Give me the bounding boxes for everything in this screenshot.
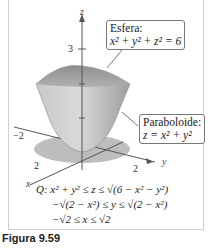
sphere-leader [107, 50, 122, 68]
sphere-title: Esfera: [110, 22, 181, 35]
region-line-3: −√2 ≤ x ≤ √2 [52, 213, 110, 226]
figure-caption: Figura 9.59 [2, 232, 60, 244]
paraboloid-leader [122, 112, 138, 126]
region-line-2: −√(2 − x²) ≤ y ≤ √(2 − x²) [52, 198, 167, 211]
y-tick-2: 2 [133, 163, 138, 174]
paraboloid-equation: z = x² + y² [143, 129, 192, 141]
x-tick-2: 2 [34, 160, 39, 171]
paraboloid-title: Paraboloide: [143, 116, 201, 129]
neg-x-tick: −2 [13, 130, 24, 141]
sphere-callout: Esfera: x² + y² + z² = 6 [106, 20, 185, 50]
z-axis-label: z [80, 6, 84, 17]
z-tick-3: 3 [68, 43, 73, 54]
region-line-1: Q: x² + y² ≤ z ≤ √(6 − x² − y²) [36, 183, 168, 196]
paraboloid-callout: Paraboloide: z = x² + y² [139, 114, 205, 144]
sphere-equation: x² + y² + z² = 6 [110, 35, 181, 47]
y-axis-label: y [162, 156, 166, 167]
x-axis-label: x [26, 178, 30, 189]
